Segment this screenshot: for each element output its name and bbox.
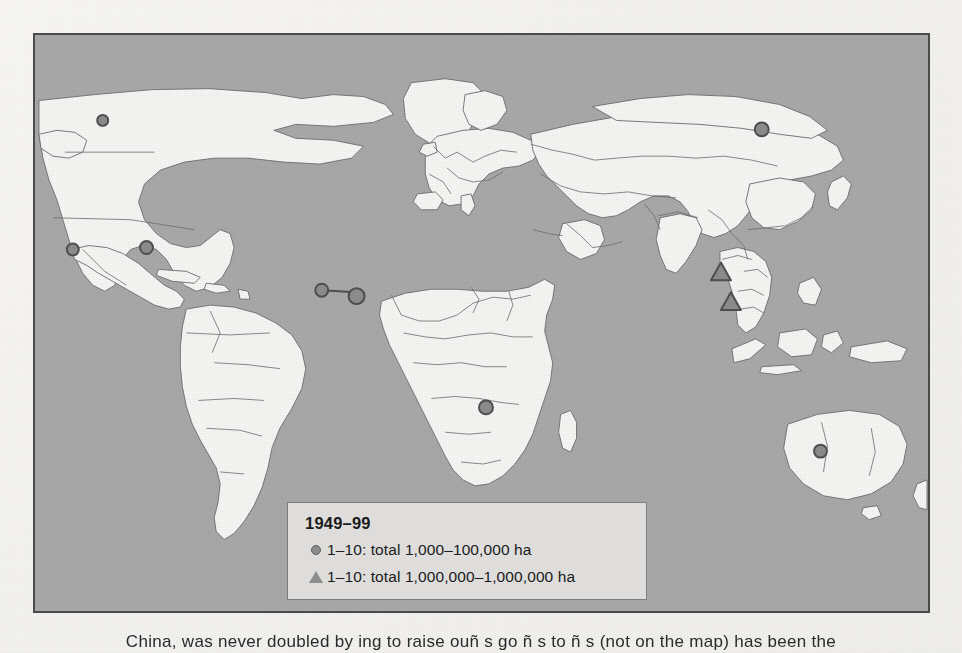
legend-label-triangle: 1–10: total 1,000,000–1,000,000 ha	[327, 569, 575, 585]
marker-circle-central-mexico[interactable]	[67, 244, 79, 256]
marker-circle-atlantic-offshore[interactable]	[315, 284, 328, 297]
legend-label-circle: 1–10: total 1,000–100,000 ha	[327, 542, 531, 558]
map-legend: 1949–99 1–10: total 1,000–100,000 ha 1–1…	[287, 502, 647, 600]
figure-caption: China, was never doubled by ing to raise…	[0, 632, 962, 652]
legend-triangle-icon	[305, 571, 327, 583]
legend-title: 1949–99	[305, 515, 646, 532]
marker-circle-cuba[interactable]	[140, 241, 153, 254]
world-map-figure: 1949–99 1–10: total 1,000–100,000 ha 1–1…	[33, 33, 930, 613]
marker-circle-russian-far-east[interactable]	[755, 122, 769, 136]
marker-circle-eastern-australia[interactable]	[814, 445, 827, 458]
marker-circle-west-africa[interactable]	[349, 288, 365, 304]
marker-circle-zimbabwe-zambia[interactable]	[479, 400, 493, 414]
marker-circle-northwest-canada[interactable]	[97, 115, 108, 126]
legend-circle-icon	[305, 545, 327, 555]
legend-row-circle: 1–10: total 1,000–100,000 ha	[305, 539, 646, 562]
legend-row-triangle: 1–10: total 1,000,000–1,000,000 ha	[305, 566, 646, 589]
